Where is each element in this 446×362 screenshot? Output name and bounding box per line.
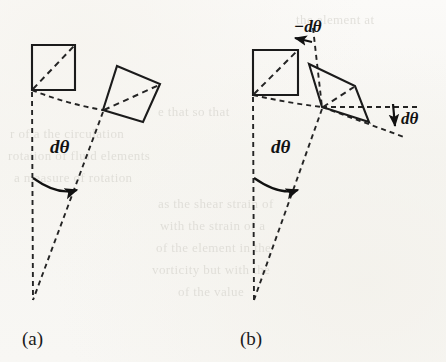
panel-b-d-theta-arc-arrow [254,178,298,192]
panel-b-right-d-theta-label: dθ [401,109,419,128]
figure-drawing: dθ (a) −dθ [0,0,446,362]
panel-b-d-theta-label: dθ [271,136,291,157]
panel-a-d-theta-label: dθ [50,136,70,157]
panel-b-undeformed-square-diagonal [254,51,297,94]
panel-b-minus-d-theta-arrow [295,38,312,42]
panel-a-group: dθ (a) [22,45,160,350]
panel-a-reference-radius-vertical [32,92,33,300]
panel-a-undeformed-square-diagonal [33,46,74,89]
panel-b-reference-radius-vertical [253,97,254,300]
panel-b-group: −dθ dθ dθ (b) [240,17,419,350]
panel-a-arc-connector [32,90,103,110]
panel-b-sheared-parallelogram [309,64,369,122]
panel-a-undeformed-square [32,45,75,90]
panel-b-minus-d-theta-label: −dθ [294,17,322,36]
panel-b-arc-connector [253,95,322,107]
panel-a-d-theta-arc-arrow [33,178,77,192]
panel-a-rotated-square [103,66,160,122]
panel-b-label: (b) [240,328,262,350]
panel-a-label: (a) [22,328,43,350]
figure-root: the element ate that so thatr of a the c… [0,0,446,362]
panel-b-parallelogram-diagonal [323,87,354,107]
